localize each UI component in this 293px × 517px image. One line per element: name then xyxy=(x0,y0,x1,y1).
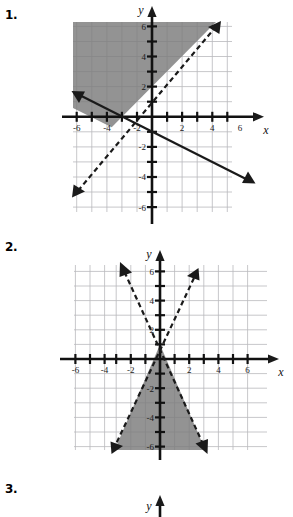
x-tick-label: 4 xyxy=(216,365,221,375)
problem-2-graph: -6 -4 -2 2 4 6 6 4 2 -2 -4 -6 x y xyxy=(0,232,293,462)
x-tick-label: -6 xyxy=(72,365,80,375)
x-tick-label: 6 xyxy=(238,123,243,133)
y-tick-label: -6 xyxy=(139,203,147,213)
x-tick-label: -4 xyxy=(103,123,111,133)
y-tick-label: 6 xyxy=(150,267,155,277)
y-axis-arrow-3 xyxy=(155,495,164,506)
y-tick-label: 4 xyxy=(142,52,147,62)
problem-1-graph: -6 -4 -2 2 4 6 6 4 2 -2 -4 -6 x y xyxy=(0,0,293,232)
x-tick-label: 2 xyxy=(187,365,192,375)
graph-1-svg: -6 -4 -2 2 4 6 6 4 2 -2 -4 -6 x y xyxy=(0,0,293,232)
y-axis-label: y xyxy=(145,247,152,261)
y-tick-label: -4 xyxy=(147,413,155,423)
problem-3: 3. y xyxy=(0,462,293,517)
graph-3-svg: y xyxy=(0,462,293,517)
x-tick-label: -6 xyxy=(73,123,81,133)
graph-2-svg: -6 -4 -2 2 4 6 6 4 2 -2 -4 -6 x y xyxy=(0,232,293,462)
x-tick-label: 6 xyxy=(245,365,250,375)
y-tick-label: -4 xyxy=(139,172,147,182)
x-axis-label: x xyxy=(262,123,269,137)
y-axis-label: y xyxy=(145,499,152,513)
y-tick-label: 4 xyxy=(150,296,155,306)
y-tick-label: -6 xyxy=(147,442,155,452)
x-tick-label: -2 xyxy=(127,365,135,375)
problem-2: 2. xyxy=(0,232,293,462)
problem-3-graph: y xyxy=(0,462,293,517)
problem-1: 1. xyxy=(0,0,293,232)
x-axis-label: x xyxy=(277,365,284,379)
y-tick-label: -2 xyxy=(147,384,155,394)
x-tick-label: -4 xyxy=(101,365,109,375)
y-tick-label: 6 xyxy=(142,22,147,32)
x-tick-label: 2 xyxy=(180,123,185,133)
y-axis-label: y xyxy=(137,3,144,17)
y-tick-label: 2 xyxy=(142,82,147,92)
y-tick-label: -2 xyxy=(139,142,147,152)
x-tick-label: 4 xyxy=(210,123,215,133)
